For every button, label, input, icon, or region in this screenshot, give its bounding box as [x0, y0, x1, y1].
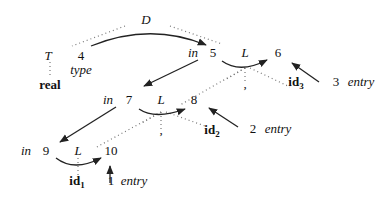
- node-id1: id1: [69, 173, 85, 190]
- node-8: 8: [191, 92, 198, 107]
- node-L-3: L: [73, 143, 81, 158]
- dependency-graph: D T 4 type real in 5 L 6 , id3 3 entry i…: [0, 0, 385, 200]
- node-9: 9: [43, 143, 50, 158]
- node-5: 5: [210, 45, 217, 60]
- label-in-9: in: [21, 143, 31, 158]
- label-entry-3: entry: [348, 74, 375, 89]
- node-2: 2: [250, 121, 257, 136]
- node-comma-2: ,: [159, 122, 162, 137]
- node-id3: id3: [288, 74, 304, 91]
- label-in-5: in: [188, 45, 198, 60]
- node-comma-1: ,: [243, 76, 246, 91]
- node-L-1: L: [240, 45, 248, 60]
- node-4: 4: [78, 48, 85, 63]
- node-real: real: [39, 77, 61, 92]
- parse-tree-edges: [50, 26, 290, 176]
- node-10: 10: [105, 143, 118, 158]
- label-entry-1: entry: [121, 173, 148, 188]
- node-3: 3: [333, 74, 340, 89]
- node-T: T: [44, 48, 52, 63]
- node-id2: id2: [204, 122, 220, 139]
- node-7: 7: [126, 92, 133, 107]
- node-6: 6: [275, 45, 282, 60]
- label-type: type: [70, 62, 92, 77]
- node-L-2: L: [156, 92, 164, 107]
- node-1: 1: [108, 173, 115, 188]
- node-D: D: [140, 12, 151, 27]
- label-in-7: in: [103, 92, 113, 107]
- label-entry-2: entry: [265, 121, 292, 136]
